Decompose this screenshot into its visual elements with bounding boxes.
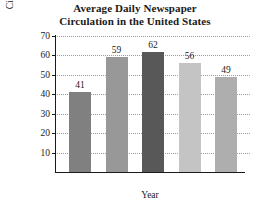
y-axis-tick-label: 40 <box>41 89 51 99</box>
bar: 56 <box>179 63 201 172</box>
bar-value-label: 59 <box>112 45 122 55</box>
y-axis-title-line-2: Circulation (millions) <box>5 0 16 28</box>
gridline <box>55 36 250 37</box>
plot-area: 1020304050607041194059196062198056200049… <box>55 36 250 172</box>
y-axis-tick <box>52 114 56 115</box>
y-axis-tick <box>52 55 56 56</box>
y-axis-tick <box>52 94 56 95</box>
y-axis-tick-label: 50 <box>41 70 51 80</box>
y-axis-tick <box>52 153 56 154</box>
y-axis-tick <box>52 75 56 76</box>
bar: 49 <box>215 77 237 172</box>
bar: 62 <box>142 52 164 172</box>
chart-title-line-1: Average Daily Newspaper <box>28 2 242 15</box>
x-axis-title: Year <box>55 190 245 200</box>
y-axis-tick <box>52 36 56 37</box>
y-axis-tick-label: 60 <box>41 50 51 60</box>
bar: 59 <box>106 57 128 172</box>
y-axis-tick <box>52 133 56 134</box>
y-axis-tick-label: 30 <box>41 109 51 119</box>
chart-title-line-2: Circulation in the United States <box>28 15 242 28</box>
bar-value-label: 41 <box>75 80 85 90</box>
y-axis-tick-label: 70 <box>41 31 51 41</box>
chart-title: Average Daily Newspaper Circulation in t… <box>28 2 242 27</box>
bar: 41 <box>69 92 91 172</box>
x-axis-line <box>55 172 245 173</box>
bar-chart-figure: Average Daily Newspaper Circulation in t… <box>0 0 262 213</box>
y-axis-tick-label: 20 <box>41 128 51 138</box>
y-axis-title: Average Daily Circulation (millions) <box>0 0 16 28</box>
bar-value-label: 62 <box>148 40 158 50</box>
y-axis-tick-label: 10 <box>41 148 51 158</box>
bar-value-label: 49 <box>221 65 231 75</box>
bar-value-label: 56 <box>185 51 195 61</box>
